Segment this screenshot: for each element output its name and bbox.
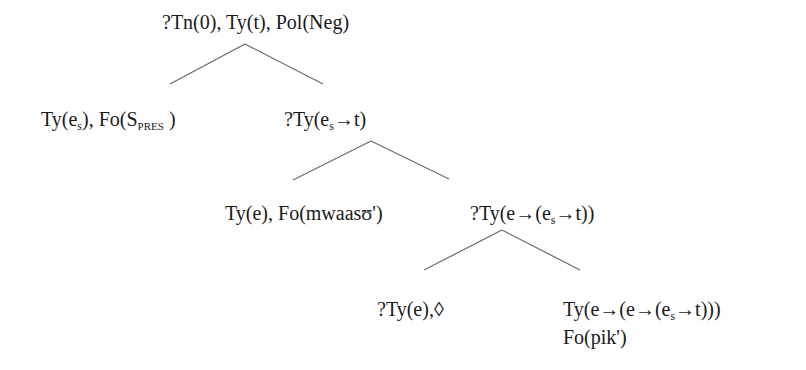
node-functor-subscript-s: s <box>551 213 556 227</box>
node-verb-subscript-s: s <box>670 309 675 323</box>
node-subject-text-b: ), Fo(S <box>82 108 138 130</box>
node-subject-text-a: Ty(e <box>41 108 77 130</box>
node-predicate-subscript-s: s <box>329 119 334 133</box>
edge-functor-verb <box>502 230 580 270</box>
node-predicate: ?Ty(es→t) <box>284 107 366 135</box>
node-pointer-label: ?Ty(e),◊ <box>377 298 444 320</box>
node-root-label: ?Tn(0), Ty(t), Pol(Neg) <box>162 11 349 33</box>
node-subject-subscript-pres: PRES <box>138 120 164 132</box>
node-functor-text-b: →t)) <box>555 202 594 224</box>
node-object-label: Ty(e), Fo(mwaasʊ') <box>225 202 383 224</box>
node-subject: Ty(es), Fo(SPRES ) <box>41 107 176 135</box>
node-functor: ?Ty(e→(es→t)) <box>470 201 594 229</box>
edge-predicate-object <box>293 141 371 180</box>
node-verb-line1: Ty(e→(e→(es→t))) <box>563 297 721 325</box>
node-root: ?Tn(0), Ty(t), Pol(Neg) <box>162 10 349 35</box>
node-pointer: ?Ty(e),◊ <box>377 297 444 322</box>
node-subject-text-c: ) <box>164 108 176 130</box>
node-verb-text-b: →t))) <box>675 298 721 320</box>
node-verb-text-a: Ty(e→(e→(e <box>563 298 670 320</box>
node-verb: Ty(e→(e→(es→t))) Fo(pik') <box>563 297 721 350</box>
node-verb-line2: Fo(pik') <box>563 325 721 350</box>
node-predicate-text-b: →t) <box>334 108 366 130</box>
edge-root-predicate <box>245 44 323 84</box>
node-object: Ty(e), Fo(mwaasʊ') <box>225 201 383 226</box>
node-predicate-text-a: ?Ty(e <box>284 108 329 130</box>
edge-functor-pointer <box>424 230 502 270</box>
edge-root-subject <box>170 44 245 84</box>
node-subject-subscript-s: s <box>77 119 82 133</box>
node-functor-text-a: ?Ty(e→(e <box>470 202 551 224</box>
edge-predicate-functor <box>371 141 449 179</box>
